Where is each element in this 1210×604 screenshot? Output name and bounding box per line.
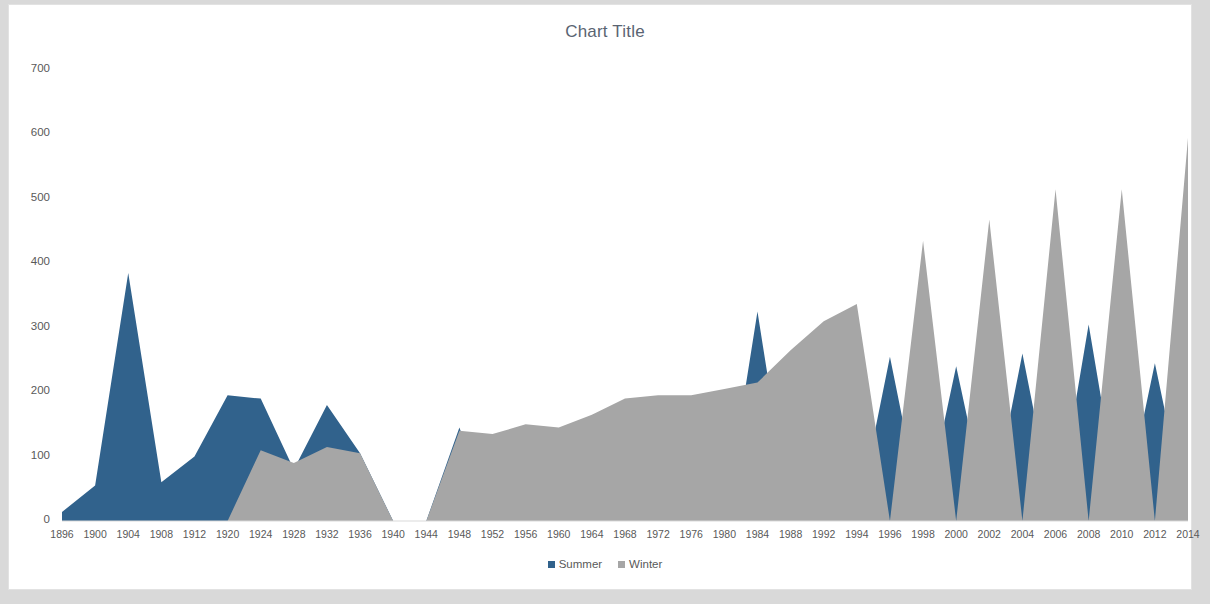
x-axis-tick-label: 2010: [1110, 528, 1133, 540]
x-axis-tick-label: 1998: [911, 528, 934, 540]
x-axis-tick-label: 1904: [117, 528, 140, 540]
legend-swatch-icon: [548, 561, 555, 568]
y-axis-tick-label: 300: [4, 320, 50, 332]
x-axis-tick-label: 1980: [713, 528, 736, 540]
y-axis-tick-label: 200: [4, 384, 50, 396]
x-axis-tick-label: 1928: [282, 528, 305, 540]
x-axis-tick-label: 1996: [878, 528, 901, 540]
y-axis-tick-label: 600: [4, 126, 50, 138]
y-axis-tick-label: 0: [4, 513, 50, 525]
x-axis-tick-label: 1912: [183, 528, 206, 540]
legend-item-winter[interactable]: Winter: [618, 558, 662, 570]
x-axis-tick-label: 2012: [1143, 528, 1166, 540]
x-axis-tick-label: 1896: [50, 528, 73, 540]
y-axis-tick-label: 700: [4, 62, 50, 74]
x-axis-tick-label: 1964: [580, 528, 603, 540]
x-axis-tick-label: 1968: [613, 528, 636, 540]
x-axis-tick-label: 1900: [83, 528, 106, 540]
x-axis-tick-label: 1992: [812, 528, 835, 540]
x-axis-tick-label: 1956: [514, 528, 537, 540]
x-axis-tick-label: 1976: [680, 528, 703, 540]
x-axis-tick-label: 1932: [315, 528, 338, 540]
x-axis-tick-label: 1924: [249, 528, 272, 540]
chart-screenshot: Chart Title 0100200300400500600700 18961…: [0, 0, 1210, 604]
x-axis-tick-label: 1944: [415, 528, 438, 540]
x-axis-tick-label: 1940: [381, 528, 404, 540]
x-axis-tick-label: 1920: [216, 528, 239, 540]
x-axis-tick-label: 1988: [779, 528, 802, 540]
x-axis-tick-label: 2008: [1077, 528, 1100, 540]
legend-label: Winter: [629, 558, 662, 570]
x-axis-tick-label: 1908: [150, 528, 173, 540]
series-layer: [62, 138, 1188, 521]
x-axis-tick-label: 1960: [547, 528, 570, 540]
x-axis-tick-label: 1972: [646, 528, 669, 540]
x-axis-tick-label: 2002: [978, 528, 1001, 540]
legend-item-summer[interactable]: Summer: [548, 558, 602, 570]
x-axis-tick-label: 1952: [481, 528, 504, 540]
legend-swatch-icon: [618, 561, 625, 568]
chart-plot-area: [0, 0, 1210, 604]
x-axis-tick-label: 1984: [746, 528, 769, 540]
y-axis-tick-label: 500: [4, 191, 50, 203]
x-axis-tick-label: 2014: [1176, 528, 1199, 540]
x-axis-tick-label: 1948: [448, 528, 471, 540]
x-axis-tick-label: 1936: [348, 528, 371, 540]
chart-legend: SummerWinter: [0, 558, 1210, 570]
x-axis-tick-label: 2006: [1044, 528, 1067, 540]
x-axis-tick-label: 2004: [1011, 528, 1034, 540]
x-axis-tick-label: 1994: [845, 528, 868, 540]
x-axis-tick-label: 2000: [944, 528, 967, 540]
y-axis-tick-label: 400: [4, 255, 50, 267]
y-axis-tick-label: 100: [4, 449, 50, 461]
legend-label: Summer: [559, 558, 602, 570]
